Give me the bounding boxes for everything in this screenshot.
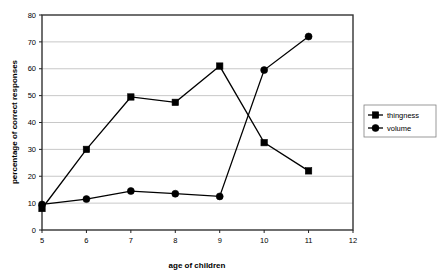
x-tick-label: 9 [218, 236, 222, 245]
chart-legend: thingnessvolume [364, 105, 436, 137]
data-point-circle [305, 33, 312, 40]
x-tick-label: 12 [349, 236, 357, 245]
data-point-circle [172, 190, 179, 197]
data-point-square [172, 99, 178, 105]
x-tick-label: 8 [173, 236, 177, 245]
x-tick-label: 5 [40, 236, 44, 245]
y-tick-label: 50 [28, 91, 36, 100]
data-point-square [128, 94, 134, 100]
x-tick-label: 11 [305, 236, 313, 245]
y-tick-label: 20 [28, 172, 36, 181]
x-axis-title: age of children [169, 261, 226, 270]
y-axis-title: percentage of correct responses [10, 59, 19, 184]
y-tick-label: 60 [28, 64, 36, 73]
x-axis-ticks: 56789101112 [40, 230, 357, 245]
gridlines [42, 42, 353, 203]
chart-canvas: 01020304050607080 56789101112 age of chi… [0, 0, 439, 275]
legend-label: thingness [387, 111, 419, 120]
series-volume [39, 33, 313, 208]
data-point-square [305, 168, 311, 174]
y-tick-label: 40 [28, 118, 36, 127]
data-point-circle [216, 193, 223, 200]
data-point-circle [39, 201, 46, 208]
data-point-square [217, 63, 223, 69]
data-point-circle [372, 125, 379, 132]
legend-item-volume[interactable]: volume [368, 124, 411, 133]
x-tick-label: 6 [84, 236, 88, 245]
legend-label: volume [387, 124, 411, 133]
x-tick-label: 10 [260, 236, 268, 245]
series-line [42, 37, 309, 205]
line-chart: 01020304050607080 56789101112 age of chi… [0, 0, 439, 275]
y-tick-label: 0 [32, 226, 36, 235]
y-tick-label: 30 [28, 145, 36, 154]
data-point-circle [261, 67, 268, 74]
data-point-circle [127, 188, 134, 195]
x-tick-label: 7 [129, 236, 133, 245]
y-axis-ticks: 01020304050607080 [28, 11, 42, 235]
series-thingness [39, 63, 312, 212]
data-point-square [83, 146, 89, 152]
series-line [42, 66, 309, 208]
data-point-circle [83, 196, 90, 203]
y-tick-label: 80 [28, 11, 36, 20]
y-tick-label: 70 [28, 38, 36, 47]
data-point-square [372, 112, 378, 118]
legend-item-thingness[interactable]: thingness [368, 111, 419, 120]
y-tick-label: 10 [28, 199, 36, 208]
data-point-square [261, 139, 267, 145]
